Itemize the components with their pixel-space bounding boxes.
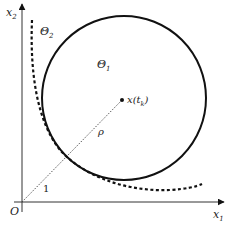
- center-point-label: x(tk): [127, 94, 149, 108]
- ray-line: [22, 100, 122, 202]
- origin-label: O: [10, 205, 19, 218]
- center-point: [120, 98, 124, 102]
- theta2-label: Θ2: [40, 25, 54, 40]
- diagram-canvas: x2 x1 O Θ2 Θ1 x(tk) ρ 1: [0, 0, 235, 227]
- y-axis-label: x2: [6, 6, 17, 21]
- theta1-label: Θ1: [97, 58, 111, 73]
- x-axis-label: x1: [213, 208, 224, 223]
- unit-length-label: 1: [43, 183, 49, 194]
- radius-label: ρ: [97, 126, 104, 137]
